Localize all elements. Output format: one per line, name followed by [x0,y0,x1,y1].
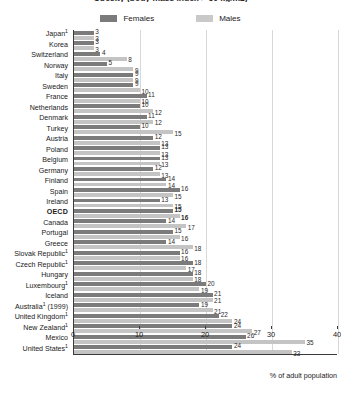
bar-males [74,57,127,61]
bar-row: 33 [74,40,337,50]
bar-males [74,245,193,249]
bar-males [74,78,133,82]
bar-value-females: 22 [221,312,228,318]
bar-row: 33 [74,30,337,40]
bar-value-females: 24 [234,343,241,349]
bar-value-females: 11 [148,113,155,119]
bar-males [74,319,232,323]
bar-females [74,83,133,87]
bar-males [74,277,193,281]
bar-value-females: 13 [161,197,168,203]
bar-row: 1112 [74,114,337,124]
bar-females [74,104,140,108]
category-label-new-zealand: New Zealand1 [23,325,68,333]
category-label-sweden: Sweden [42,84,68,91]
category-label-germany: Germany [39,168,68,175]
bar-row: 1213 [74,135,337,145]
footnote-marker: 1 [43,301,46,307]
bar-males [74,141,160,145]
legend-entry-females: Females [100,15,154,23]
bar-row: 2019 [74,282,337,292]
category-label-slovak-republic: Slovak Republic1 [14,251,68,259]
bar-value-females: 15 [175,228,182,234]
bar-row: 1110 [74,93,337,103]
category-label-turkey: Turkey [47,126,68,133]
category-label-oecd: OECD [47,209,68,216]
bar-value-females: 19 [201,302,208,308]
category-label-japan: Japan1 [46,31,68,39]
category-label-mexico: Mexico [46,335,68,342]
bar-value-females: 5 [109,60,113,66]
bar-row: 2224 [74,313,337,323]
bar-females [74,125,140,129]
bar-row: 1213 [74,166,337,176]
category-label-france: France [46,94,68,101]
bar-females [74,199,160,203]
category-label-norway: Norway [44,63,68,70]
bar-females [74,303,199,307]
bar-males [74,266,186,270]
bar-females [74,31,94,35]
x-tick-mark-40 [337,326,338,329]
bar-females [74,94,147,98]
bar-females [74,178,166,182]
bar-row: 910 [74,82,337,92]
bar-males [74,193,173,197]
bar-value-females: 15 [175,207,182,213]
bar-females [74,282,206,286]
x-tick-mark-10 [139,326,140,329]
bar-value-females: 14 [168,218,175,224]
bar-males [74,350,292,354]
bar-females [74,345,232,349]
bar-males [74,183,166,187]
bar-females [74,167,153,171]
bar-males [74,151,160,155]
footnote-marker: 1 [65,322,68,328]
bar-females [74,62,107,66]
bar-males [74,224,186,228]
bar-females [74,188,180,192]
bar-value-females: 18 [194,260,201,266]
category-label-ireland: Ireland [46,199,68,206]
category-label-czech-republic: Czech Republic1 [15,262,68,270]
legend-label-males: Males [219,15,240,23]
category-label-finland: Finland [45,178,68,185]
x-tick-label-30: 30 [267,330,275,339]
bar-row: 1313 [74,156,337,166]
category-label-netherlands: Netherlands [30,105,68,112]
bar-value-females: 13 [161,144,168,150]
bar-row: 59 [74,61,337,71]
bar-males [74,235,180,239]
bar-males [74,67,133,71]
x-tick-label-20: 20 [201,330,209,339]
bar-males [74,287,199,291]
category-label-australia-1999: Australia1 (1999) [15,304,68,312]
x-tick-label-10: 10 [135,330,143,339]
bar-value-females: 3 [95,39,99,45]
footnote-marker: 1 [65,259,68,265]
bar-males [74,36,94,40]
category-label-united-states: United States1 [23,346,68,354]
gridline-40 [338,30,339,354]
x-axis: 010203040 [73,326,337,342]
category-label-switzerland: Switzerland [31,52,68,59]
category-label-portugal: Portugal [42,230,68,237]
bar-females [74,115,147,119]
bar-value-females: 11 [148,92,155,98]
bar-males [74,172,160,176]
bar-females [74,240,166,244]
bar-females [74,136,153,140]
bar-row: 48 [74,51,337,61]
bar-row: 1414 [74,177,337,187]
category-label-denmark: Denmark [39,115,68,122]
bar-males [74,109,153,113]
category-label-canada: Canada [43,220,68,227]
bar-value-females: 16 [181,186,188,192]
bar-males [74,308,213,312]
bar-males [74,46,94,50]
category-label-poland: Poland [46,147,68,154]
bar-row: 1516 [74,208,337,218]
x-tick-label-0: 0 [71,330,75,339]
bar-value-females: 12 [155,165,162,171]
bar-value-males: 33 [293,351,300,357]
